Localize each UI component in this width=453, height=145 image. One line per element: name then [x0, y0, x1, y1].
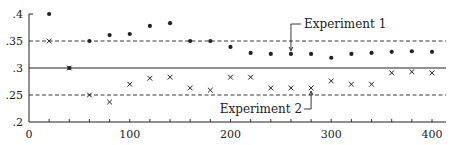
dot-marker: [47, 12, 51, 16]
x-marker: [148, 76, 153, 81]
dot-marker: [208, 39, 212, 43]
x-marker: [289, 86, 294, 91]
y-tick-label: .35: [6, 35, 24, 48]
x-marker: [208, 88, 213, 93]
x-marker: [389, 70, 394, 75]
annotations: Experiment 1Experiment 2: [220, 17, 387, 116]
scatter-chart: .2.25.3.35.40100200300400 Experiment 1Ex…: [0, 0, 453, 145]
dot-marker: [369, 51, 373, 55]
x-marker: [168, 75, 173, 80]
dot-marker: [390, 50, 394, 54]
dot-marker: [168, 21, 172, 25]
dot-marker: [128, 32, 132, 36]
x-marker: [329, 79, 334, 84]
dot-marker: [87, 39, 91, 43]
x-tick-label: 200: [220, 128, 241, 141]
dot-marker: [289, 52, 293, 56]
x-marker: [430, 70, 435, 75]
x-tick-label: 0: [26, 128, 33, 141]
x-tick-label: 400: [422, 128, 443, 141]
dot-marker: [188, 39, 192, 43]
label-experiment-1: Experiment 1: [304, 17, 386, 31]
x-marker: [188, 86, 193, 91]
dot-marker: [349, 52, 353, 56]
label-experiment-2: Experiment 2: [220, 102, 302, 116]
x-marker: [309, 86, 314, 91]
dot-marker: [309, 52, 313, 56]
y-tick-label: .25: [6, 89, 24, 102]
x-marker: [127, 82, 132, 87]
dot-marker: [108, 33, 112, 37]
y-tick-label: .4: [13, 8, 24, 21]
dot-marker: [249, 51, 253, 55]
dot-marker: [329, 56, 333, 60]
dot-marker: [269, 52, 273, 56]
dot-marker: [410, 49, 414, 53]
series-experiment-2: [47, 39, 435, 105]
x-marker: [268, 86, 273, 91]
x-tick-label: 300: [321, 128, 342, 141]
y-tick-label: .2: [13, 116, 24, 129]
leader-line-experiment-1: [291, 24, 301, 50]
leader-line-experiment-2: [304, 92, 311, 109]
x-marker: [409, 69, 414, 74]
dot-marker: [228, 45, 232, 49]
x-marker: [248, 75, 253, 80]
reference-lines: [29, 41, 446, 95]
y-tick-label: .3: [13, 62, 24, 75]
x-marker: [228, 75, 233, 80]
dot-marker: [430, 50, 434, 54]
x-marker: [349, 82, 354, 87]
x-marker: [107, 100, 112, 105]
dot-marker: [148, 24, 152, 28]
x-marker: [369, 82, 374, 87]
x-tick-label: 100: [119, 128, 140, 141]
